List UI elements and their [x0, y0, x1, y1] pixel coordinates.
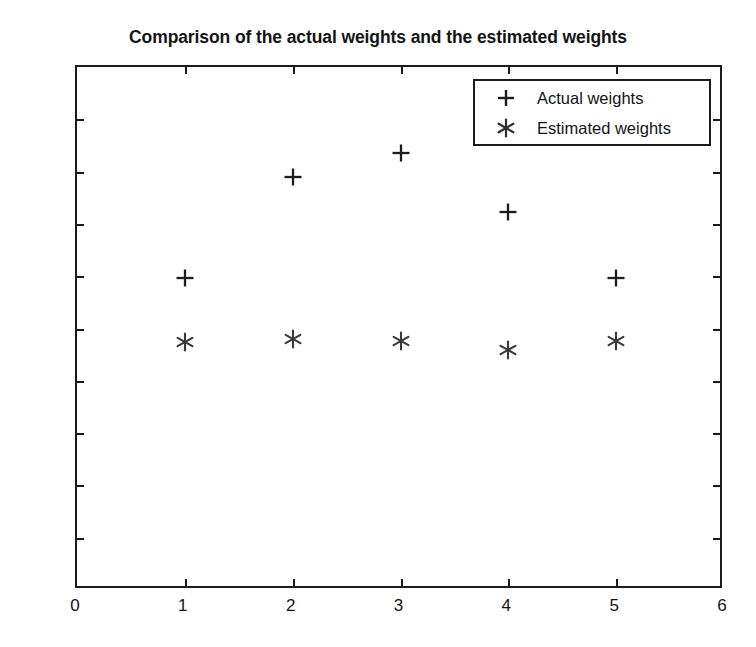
- y-axis-tick: [76, 485, 84, 487]
- x-axis-tick-label: 3: [394, 596, 403, 616]
- data-point-estimated-2: [283, 329, 303, 349]
- data-point-estimated-4: [498, 340, 518, 360]
- y-axis-tick: [76, 381, 84, 383]
- y-axis-tick: [76, 224, 84, 226]
- y-axis-tick: [713, 538, 721, 540]
- data-point-estimated-3: [391, 331, 411, 351]
- data-point-estimated-5: [606, 331, 626, 351]
- page-title: Comparison of the actual weights and the…: [0, 27, 756, 48]
- x-axis-tick: [293, 66, 295, 74]
- x-axis-tick: [293, 579, 295, 587]
- legend-label-estimated-weights: Estimated weights: [537, 119, 671, 138]
- x-axis-tick: [185, 66, 187, 74]
- y-axis-tick: [76, 172, 84, 174]
- legend: Actual weights Estimated weights: [473, 79, 711, 146]
- x-axis-tick-label: 1: [178, 596, 187, 616]
- figure: Comparison of the actual weights and the…: [0, 0, 756, 647]
- y-axis-tick: [76, 538, 84, 540]
- data-point-actual-1: [175, 268, 195, 288]
- x-axis-tick: [401, 66, 403, 74]
- legend-entry-estimated-weights: Estimated weights: [475, 114, 709, 142]
- y-axis-tick: [713, 381, 721, 383]
- y-axis-tick: [713, 329, 721, 331]
- data-point-actual-2: [283, 167, 303, 187]
- x-axis-tick-label: 0: [70, 596, 79, 616]
- x-axis-tick: [401, 579, 403, 587]
- x-axis-tick: [185, 579, 187, 587]
- y-axis-tick: [713, 224, 721, 226]
- y-axis-tick: [713, 433, 721, 435]
- legend-entry-actual-weights: Actual weights: [475, 84, 709, 112]
- x-axis-tick: [508, 66, 510, 74]
- y-axis-tick: [76, 119, 84, 121]
- y-axis-tick: [713, 485, 721, 487]
- y-axis-tick: [713, 276, 721, 278]
- x-axis-tick-label: 6: [717, 596, 726, 616]
- plus-marker-icon: [475, 87, 537, 109]
- y-axis-tick: [76, 433, 84, 435]
- y-axis-tick: [76, 276, 84, 278]
- data-point-actual-3: [391, 143, 411, 163]
- x-axis-tick: [508, 579, 510, 587]
- x-axis-tick-label: 2: [286, 596, 295, 616]
- data-point-estimated-1: [175, 332, 195, 352]
- data-point-actual-5: [606, 268, 626, 288]
- y-axis-tick: [713, 172, 721, 174]
- asterisk-marker-icon: [475, 117, 537, 139]
- x-axis-tick: [616, 579, 618, 587]
- data-point-actual-4: [498, 202, 518, 222]
- x-axis-tick-label: 5: [609, 596, 618, 616]
- legend-label-actual-weights: Actual weights: [537, 89, 643, 108]
- x-axis-tick: [616, 66, 618, 74]
- y-axis-tick: [713, 119, 721, 121]
- y-axis-tick: [76, 329, 84, 331]
- x-axis-tick-label: 4: [502, 596, 511, 616]
